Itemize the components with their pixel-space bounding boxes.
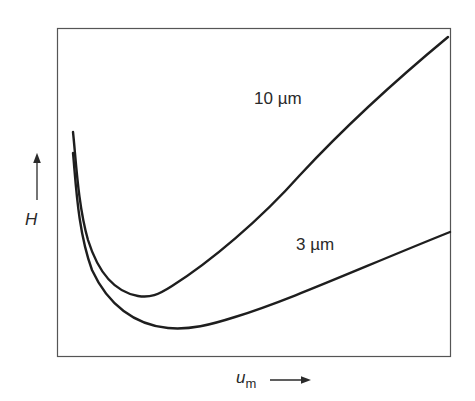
series-label-10um: 10 µm (254, 89, 302, 109)
y-axis-label: H (25, 210, 37, 230)
plot-frame (58, 29, 451, 357)
chart-canvas (0, 0, 475, 401)
curve-10um (73, 37, 448, 297)
series-label-3um: 3 µm (296, 235, 334, 255)
x-axis-label-sub: m (245, 376, 256, 391)
x-axis-label: um (236, 368, 256, 388)
curve-3um (73, 153, 450, 328)
